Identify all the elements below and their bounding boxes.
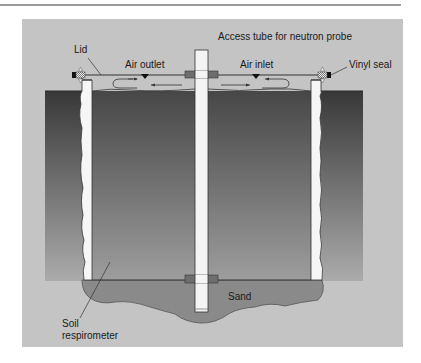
soil-respirometer-label-line1: Soil [62, 318, 79, 329]
vinyl-seal-leader [331, 67, 347, 75]
air-inlet-label: Air inlet [240, 59, 273, 70]
lid-label: Lid [74, 44, 87, 55]
sand-label: Sand [228, 291, 251, 302]
access-tube-label: Access tube for neutron probe [218, 31, 352, 42]
air-outlet-label: Air outlet [125, 59, 164, 70]
lid-leader [88, 58, 101, 75]
soil-respirometer-label-line2: respirometer [62, 330, 118, 341]
right-wall [311, 80, 323, 280]
soil-respirometer-diagram [0, 0, 421, 363]
vinyl-seal-label: Vinyl seal [349, 59, 392, 70]
